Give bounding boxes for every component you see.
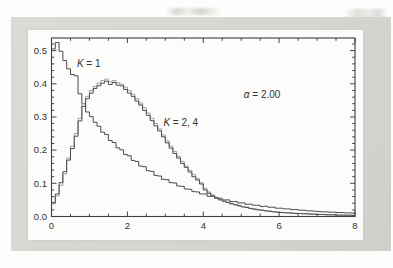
y-tick-label: 0.1 (34, 178, 47, 189)
y-tick-label: 0.4 (34, 78, 47, 89)
x-tick-label: 8 (352, 220, 357, 231)
x-tick-label: 0 (49, 220, 54, 231)
series-curve-2 (52, 81, 356, 215)
axis-tick-labels: 024680.00.10.20.30.40.5 (34, 45, 358, 231)
figure-gray-panel: 024680.00.10.20.30.40.5K = 1K = 2, 4α = … (11, 17, 391, 251)
histogram-density-chart: 024680.00.10.20.30.40.5K = 1K = 2, 4α = … (28, 30, 363, 240)
plot-white-card: 024680.00.10.20.30.40.5K = 1K = 2, 4α = … (28, 30, 363, 240)
k24-label: K = 2, 4 (163, 117, 198, 128)
scan-bleed-smudge-top-center (166, 8, 222, 15)
y-tick-label: 0.5 (34, 45, 47, 56)
y-tick-label: 0.0 (34, 211, 47, 222)
x-tick-label: 4 (201, 220, 206, 231)
alpha-label: α = 2.00 (244, 89, 281, 100)
series-curve-1 (52, 79, 356, 215)
y-tick-label: 0.2 (34, 144, 47, 155)
x-tick-label: 6 (276, 220, 281, 231)
y-tick-label: 0.3 (34, 111, 47, 122)
scanned-page-background: 024680.00.10.20.30.40.5K = 1K = 2, 4α = … (0, 0, 393, 268)
k1-label: K = 1 (77, 58, 101, 69)
x-tick-label: 2 (125, 220, 130, 231)
